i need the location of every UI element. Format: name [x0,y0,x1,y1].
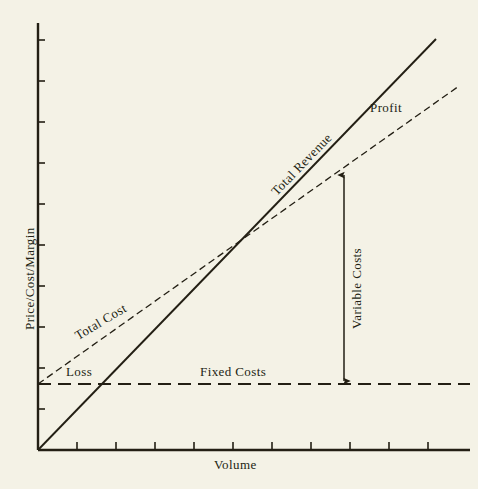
annotation-fixed-costs: Fixed Costs [200,364,266,380]
break-even-chart: Price/Cost/Margin Volume Profit Total Re… [0,0,478,489]
y-axis-title: Price/Cost/Margin [22,227,38,330]
series-line-total-cost [38,86,459,384]
annotation-variable-costs: Variable Costs [349,248,365,329]
x-axis-title: Volume [214,457,257,473]
annotation-profit: Profit [370,100,402,116]
annotation-loss: Loss [66,364,92,380]
chart-canvas [0,0,478,489]
axes [38,23,470,450]
